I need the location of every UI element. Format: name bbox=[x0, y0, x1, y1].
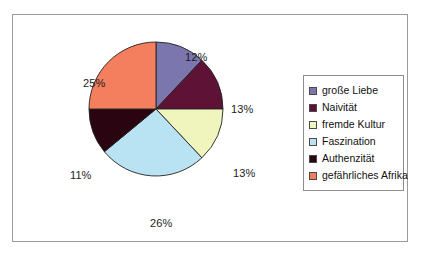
legend-item-label: gefährliches Afrika bbox=[322, 170, 408, 181]
legend-item-gefaehrliches-afrika: gefährliches Afrika bbox=[309, 167, 399, 184]
pie-label-authenzitaet: 11% bbox=[70, 169, 92, 181]
legend-item-naivitaet: Naivität bbox=[309, 99, 399, 116]
pie-label-faszination: 26% bbox=[150, 217, 172, 229]
legend-item-label: Naivität bbox=[322, 102, 357, 113]
legend-item-authenzitaet: Authenzität bbox=[309, 150, 399, 167]
pie-label-naivitaet: 13% bbox=[231, 103, 253, 115]
legend-swatch-icon bbox=[309, 172, 317, 180]
legend-item-faszination: Faszination bbox=[309, 133, 399, 150]
legend-swatch-icon bbox=[309, 138, 317, 146]
legend-item-label: Faszination bbox=[322, 136, 376, 147]
legend-item-grosse-liebe: große Liebe bbox=[309, 82, 399, 99]
legend-swatch-icon bbox=[309, 87, 317, 95]
chart-frame: 12% 13% 13% 26% 11% 25% große Liebe Naiv… bbox=[12, 14, 408, 242]
chart-legend: große Liebe Naivität fremde Kultur Faszi… bbox=[303, 75, 404, 191]
legend-item-label: große Liebe bbox=[322, 85, 378, 96]
legend-item-fremde-kultur: fremde Kultur bbox=[309, 116, 399, 133]
pie-label-gefaehrliches-afrika: 25% bbox=[83, 77, 105, 89]
legend-swatch-icon bbox=[309, 104, 317, 112]
legend-swatch-icon bbox=[309, 155, 317, 163]
pie-chart-area: 12% 13% 13% 26% 11% 25% bbox=[13, 15, 293, 243]
pie-label-grosse-liebe: 12% bbox=[185, 51, 207, 63]
legend-swatch-icon bbox=[309, 121, 317, 129]
legend-item-label: fremde Kultur bbox=[322, 119, 385, 130]
legend-item-label: Authenzität bbox=[322, 153, 375, 164]
pie-label-fremde-kultur: 13% bbox=[233, 167, 255, 179]
pie-slice bbox=[89, 42, 156, 109]
